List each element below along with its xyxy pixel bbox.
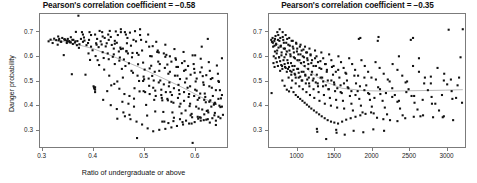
- scatter-point: [423, 82, 425, 84]
- scatter-point: [372, 128, 374, 130]
- scatter-point: [302, 88, 304, 90]
- scatter-point: [112, 56, 114, 58]
- scatter-point: [212, 95, 214, 97]
- scatter-point: [291, 79, 293, 81]
- scatter-point: [276, 52, 278, 54]
- scatter-point: [201, 46, 203, 48]
- scatter-point: [279, 37, 281, 39]
- scatter-point: [450, 79, 452, 81]
- scatter-point: [124, 115, 126, 117]
- scatter-point: [363, 89, 365, 91]
- scatter-point: [398, 55, 400, 57]
- scatter-point: [363, 77, 365, 79]
- scatter-point: [140, 39, 142, 41]
- scatter-point: [288, 66, 290, 68]
- y-tick-label: 0.7: [244, 28, 262, 35]
- scatter-point: [204, 96, 206, 98]
- scatter-point: [383, 130, 385, 132]
- scatter-point: [343, 67, 345, 69]
- scatter-point: [413, 102, 415, 104]
- scatter-point: [169, 55, 171, 57]
- scatter-point: [125, 50, 127, 52]
- scatter-point: [315, 81, 317, 83]
- scatter-point: [308, 82, 310, 84]
- scatter-point: [394, 94, 396, 96]
- scatter-point: [305, 91, 307, 93]
- scatter-point: [181, 121, 183, 123]
- scatter-point: [319, 60, 321, 62]
- scatter-point: [320, 51, 322, 53]
- scatter-point: [340, 84, 342, 86]
- scatter-point: [221, 57, 223, 59]
- scatter-point: [284, 63, 286, 65]
- scatter-point: [135, 40, 137, 42]
- scatter-point: [106, 90, 108, 92]
- scatter-point: [281, 79, 283, 81]
- scatter-point: [387, 79, 389, 81]
- scatter-point: [131, 52, 133, 54]
- scatter-point: [200, 58, 202, 60]
- scatter-point: [460, 56, 462, 58]
- scatter-point: [198, 108, 200, 110]
- scatter-point: [173, 87, 175, 89]
- scatter-point: [340, 91, 342, 93]
- scatter-point: [147, 127, 149, 129]
- scatter-point: [178, 93, 180, 95]
- scatter-point: [138, 80, 140, 82]
- scatter-point: [129, 118, 131, 120]
- scatter-point: [108, 39, 110, 41]
- scatter-point: [143, 90, 145, 92]
- scatter-point: [289, 55, 291, 57]
- scatter-point: [163, 121, 165, 123]
- scatter-point: [220, 97, 222, 99]
- scatter-point: [141, 49, 143, 51]
- scatter-point: [176, 75, 178, 77]
- scatter-point: [290, 87, 292, 89]
- scatter-point: [405, 91, 407, 93]
- x-tick-label: 2000: [357, 152, 387, 159]
- scatter-point: [307, 59, 309, 61]
- scatter-point: [328, 53, 330, 55]
- scatter-point: [436, 67, 438, 69]
- scatter-point: [192, 54, 194, 56]
- y-tick-mark: [265, 130, 268, 131]
- x-tick-label: 2500: [394, 152, 424, 159]
- scatter-point: [365, 84, 367, 86]
- scatter-point: [307, 68, 309, 70]
- scatter-point: [325, 138, 327, 140]
- scatter-point: [109, 30, 111, 32]
- scatter-point: [370, 77, 372, 79]
- scatter-point: [167, 122, 169, 124]
- scatter-point: [287, 68, 289, 70]
- scatter-point: [208, 61, 210, 63]
- scatter-point: [335, 71, 337, 73]
- scatter-point: [412, 37, 414, 39]
- scatter-point: [391, 87, 393, 89]
- scatter-point: [446, 83, 448, 85]
- scatter-point: [341, 121, 343, 123]
- scatter-plot-svg-left: [40, 14, 227, 147]
- scatter-point: [163, 83, 165, 85]
- scatter-point: [214, 112, 216, 114]
- scatter-point: [113, 48, 115, 50]
- scatter-point: [296, 48, 298, 50]
- scatter-point: [327, 88, 329, 90]
- scatter-point: [422, 99, 424, 101]
- scatter-point: [118, 50, 120, 52]
- scatter-point: [342, 100, 344, 102]
- scatter-point: [427, 89, 429, 91]
- scatter-point: [375, 79, 377, 81]
- scatter-point: [99, 30, 101, 32]
- scatter-point: [291, 65, 293, 67]
- scatter-point: [207, 111, 209, 113]
- scatter-point: [455, 97, 457, 99]
- scatter-point: [324, 63, 326, 65]
- scatter-point: [272, 42, 274, 44]
- scatter-point: [304, 75, 306, 77]
- scatter-point: [127, 52, 129, 54]
- scatter-point: [164, 44, 166, 46]
- scatter-point: [144, 69, 146, 71]
- scatter-point: [324, 117, 326, 119]
- scatter-point: [78, 43, 80, 45]
- scatter-point: [219, 89, 221, 91]
